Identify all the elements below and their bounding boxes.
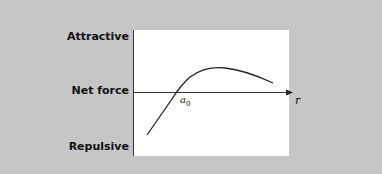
r-axis-label: r	[295, 94, 300, 107]
equilibrium-distance-label: a0	[180, 94, 190, 108]
x-axis-arrow-icon	[286, 90, 293, 96]
force-curve-plot	[0, 0, 382, 174]
net-force-curve	[147, 68, 273, 135]
